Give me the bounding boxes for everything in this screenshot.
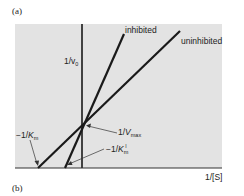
neg-inv-km-inhibited-label: −1/KmI (106, 143, 129, 155)
uninhibited-label: uninhibited (181, 36, 222, 46)
inhibited-label: inhibited (125, 25, 157, 35)
lineweaver-burk-plot: inhibited uninhibited 1/v0 1/[S] −1/Km 1… (0, 0, 244, 196)
x-axis-label: 1/[S] (205, 172, 222, 182)
